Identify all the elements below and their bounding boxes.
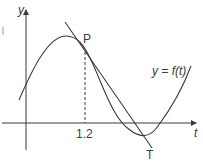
- tangent-label: T: [146, 148, 154, 162]
- point-label: P: [83, 32, 91, 46]
- diagram-canvas: y t P T 1.2 y = f(t): [0, 0, 203, 166]
- x-tick-label: 1.2: [76, 127, 93, 141]
- y-axis-label: y: [17, 3, 25, 17]
- curve-f: [19, 36, 191, 136]
- curve-label: y = f(t): [151, 64, 186, 78]
- x-axis-label: t: [194, 126, 198, 140]
